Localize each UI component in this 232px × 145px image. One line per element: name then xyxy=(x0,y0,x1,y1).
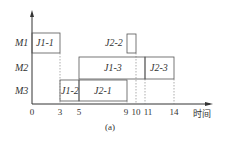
tick-5: 5 xyxy=(77,107,82,117)
task-label-j1-1: J1-1 xyxy=(36,37,54,48)
task-label-j2-2: J2-2 xyxy=(105,37,123,48)
tick-11: 11 xyxy=(144,107,153,117)
tick-10: 10 xyxy=(132,107,141,117)
y-arrow xyxy=(30,10,34,17)
task-j2-2 xyxy=(127,34,136,53)
tick-14: 14 xyxy=(170,107,179,117)
x-axis-label: 时间 xyxy=(193,107,211,120)
tick-3: 3 xyxy=(58,107,63,117)
machine-label-m3: M3 xyxy=(15,85,28,96)
machine-label-m2: M2 xyxy=(15,62,28,73)
x-arrow xyxy=(205,102,213,106)
caption: (a) xyxy=(105,122,115,132)
task-label-j2-3: J2-3 xyxy=(150,62,168,73)
machine-label-m1: M1 xyxy=(15,37,28,48)
task-label-j1-3: J1-3 xyxy=(104,62,122,73)
tick-0: 0 xyxy=(30,107,35,117)
task-label-j1-2: J1-2 xyxy=(61,85,79,96)
task-label-j2-1: J2-1 xyxy=(94,85,112,96)
tick-9: 9 xyxy=(124,107,129,117)
